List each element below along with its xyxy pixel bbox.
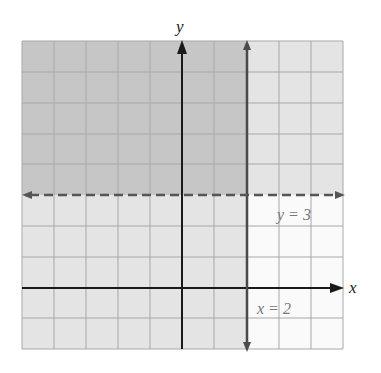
region-x-gt-2-y-gt-3 bbox=[247, 41, 343, 195]
inequality-graph: y x y = 3 x = 2 bbox=[0, 0, 381, 373]
region-x-le-2-y-lt-3 bbox=[22, 195, 247, 349]
equation-x-2-label: x = 2 bbox=[256, 300, 291, 317]
equation-y-3-label: y = 3 bbox=[275, 206, 311, 224]
region-x-le-2-y-gt-3 bbox=[22, 41, 247, 195]
y-axis-label: y bbox=[174, 17, 184, 36]
x-axis-label: x bbox=[348, 278, 357, 297]
